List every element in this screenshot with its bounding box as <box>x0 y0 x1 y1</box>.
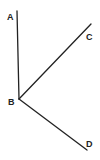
ray-bc <box>19 24 91 99</box>
angle-diagram: A B C D <box>0 0 100 160</box>
label-a: A <box>7 12 14 22</box>
ray-ba <box>17 11 19 99</box>
label-c: C <box>86 32 93 42</box>
label-d: D <box>86 139 93 149</box>
label-b: B <box>8 97 15 107</box>
ray-bd <box>19 99 87 150</box>
